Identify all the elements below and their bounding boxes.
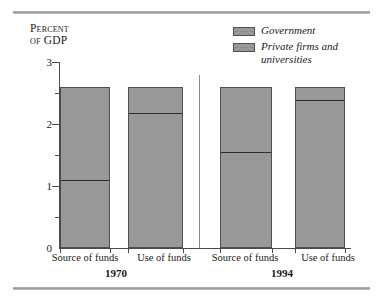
y-tick-1: [52, 186, 60, 187]
segment-divider-1970-use: [129, 113, 182, 114]
y-tick-label-1: 1: [36, 181, 52, 192]
x-group-label-1994: 1994: [232, 267, 332, 279]
y-tick-label-3: 3: [36, 57, 52, 68]
x-label-1970-source-of-funds: Source of funds: [41, 252, 129, 264]
y-axis-title-text-2: of GDP: [30, 34, 67, 46]
legend-label-private-line1: Private firms and: [261, 40, 338, 52]
legend-item-private: Private firms anduniversities: [233, 40, 383, 66]
segment-divider-1970-source: [61, 180, 109, 181]
x-axis-line: [59, 248, 351, 249]
bar-1994-use-of-funds: [295, 87, 345, 248]
chart-figure: Percent of GDP Government Private firms …: [0, 0, 385, 298]
x-label-1994-source-of-funds: Source of funds: [201, 252, 289, 264]
bar-1970-source-of-funds: [60, 87, 110, 248]
legend-label-private: Private firms anduniversities: [261, 40, 383, 66]
legend-swatch-government: [233, 27, 255, 36]
legend: Government Private firms anduniversities: [233, 24, 383, 68]
legend-swatch-private: [233, 43, 255, 52]
y-axis-title-line2: of GDP: [30, 34, 67, 47]
bar-1970-use-of-funds: [128, 87, 183, 248]
x-group-label-1970: 1970: [66, 267, 166, 279]
segment-divider-1994-source: [221, 152, 271, 153]
bottom-divider-rule: [13, 287, 370, 290]
segment-divider-1994-use: [296, 100, 344, 101]
legend-label-government: Government: [261, 24, 383, 37]
group-separator: [199, 75, 200, 248]
x-label-1970-use-of-funds: Use of funds: [126, 252, 202, 264]
y-tick-2: [52, 124, 60, 125]
y-axis-title-text-1: Percent: [30, 22, 69, 34]
legend-label-private-line2: universities: [261, 53, 383, 66]
legend-item-government: Government: [233, 24, 383, 38]
y-tick-label-2: 2: [36, 119, 52, 130]
bar-1994-source-of-funds: [220, 87, 272, 248]
x-label-1994-use-of-funds: Use of funds: [290, 252, 366, 264]
top-divider-rule: [13, 11, 370, 14]
y-tick-3: [52, 62, 60, 63]
